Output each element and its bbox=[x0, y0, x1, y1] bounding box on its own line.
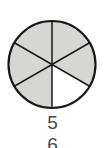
fraction-numerator: 5 bbox=[47, 113, 58, 133]
fraction-label: 5 6 bbox=[0, 110, 105, 148]
fraction-denominator: 6 bbox=[47, 135, 58, 148]
fraction-pie-figure: 5 6 bbox=[0, 0, 105, 148]
